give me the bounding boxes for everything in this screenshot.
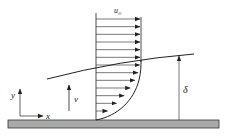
thickness-label: δ bbox=[183, 84, 188, 95]
boundary-layer-edge bbox=[47, 54, 194, 79]
x-axis-label: x bbox=[45, 111, 50, 121]
flat-plate bbox=[8, 120, 219, 128]
free-stream-velocity-label: u∞ bbox=[114, 6, 122, 16]
boundary-layer-diagram: δ v y x u∞ bbox=[0, 0, 227, 140]
y-axis-label: y bbox=[10, 90, 15, 100]
velocity-arrows bbox=[96, 19, 140, 111]
u-subscript: ∞ bbox=[118, 11, 122, 16]
normal-velocity-label: v bbox=[74, 94, 78, 104]
